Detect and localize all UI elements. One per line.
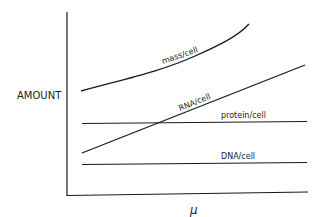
label-protein-per-cell: protein/cell xyxy=(221,111,266,120)
series-rna-per-cell xyxy=(82,65,305,153)
series-protein-per-cell xyxy=(82,122,307,124)
x-axis xyxy=(67,192,308,196)
x-axis-label: μ xyxy=(189,203,198,217)
y-axis-label: AMOUNT xyxy=(17,90,62,101)
label-rna-per-cell: RNA/cell xyxy=(177,92,211,113)
series-dna-per-cell xyxy=(82,163,307,165)
chart-canvas: AMOUNT μ mass/cell RNA/cell protein/cell… xyxy=(0,0,322,217)
label-dna-per-cell: DNA/cell xyxy=(221,152,255,161)
